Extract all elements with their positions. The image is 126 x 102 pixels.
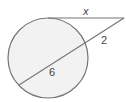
secant-internal-length-label: 6 bbox=[49, 66, 55, 78]
circle bbox=[8, 18, 88, 98]
tangent-length-label: x bbox=[82, 5, 89, 17]
secant-external-length-label: 2 bbox=[101, 34, 107, 46]
tangent-secant-diagram: x 2 6 bbox=[0, 0, 126, 102]
